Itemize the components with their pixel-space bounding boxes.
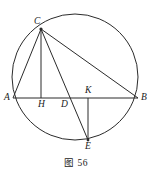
figure-page: C A B H D K E 图 56 — [0, 0, 152, 176]
point-label-b: B — [141, 93, 147, 103]
point-label-h: H — [38, 100, 45, 110]
segment-ca — [13, 29, 41, 98]
point-label-e: E — [85, 142, 91, 152]
point-label-c: C — [34, 17, 40, 27]
point-label-a: A — [4, 93, 10, 103]
circumscribed-circle — [12, 14, 138, 140]
point-label-k: K — [85, 86, 91, 96]
point-label-d: D — [61, 100, 68, 110]
geometry-figure — [0, 0, 152, 176]
figure-caption: 图 56 — [0, 155, 152, 169]
vertex-dot-c — [39, 27, 42, 30]
